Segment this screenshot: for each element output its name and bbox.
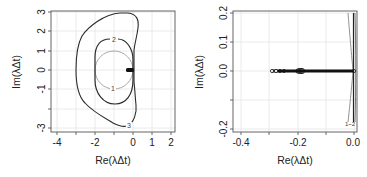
contour-3-edge (355, 13, 356, 122)
left-x-tick-label: 2 (168, 137, 174, 148)
right-y-tick-label: 0.1 (218, 35, 229, 49)
contour-1-label: 1 (111, 85, 115, 92)
left-x-tick-label: 0 (130, 137, 136, 148)
left-x-tick-label: -2 (91, 137, 100, 148)
right-y-tick-label: -0.2 (218, 120, 229, 138)
right-y-tick-label: 0.2 (218, 6, 229, 20)
right-y-tick-label: 0.0 (218, 64, 229, 78)
left-y-tick-label: 3 (36, 9, 47, 15)
left-grid (51, 11, 175, 131)
left-x-tick-label: 1 (149, 137, 155, 148)
left-x-axis-label: Re(λΔt) (95, 154, 131, 166)
right-contour-label: 1~2 (345, 121, 356, 127)
left-y-tick-label: 1 (36, 48, 47, 54)
contour-1-edge (348, 13, 353, 122)
contour-3-label: 3 (127, 122, 131, 129)
right-x-tick-label: -0.4 (232, 137, 250, 148)
left-x-tick-label: -4 (53, 137, 62, 148)
right-x-axis-label: Re(λΔt) (277, 154, 313, 166)
right-x-tick-label: 0.0 (346, 137, 360, 148)
right-y-axis-label: Im(λΔt) (193, 55, 205, 89)
left-y-tick-label: -3 (36, 123, 47, 132)
left-eigenvalue-points (126, 68, 134, 72)
eigenvalue-point (270, 69, 273, 72)
right-panel: 1~2 -0.4 -0.2 0.0 0.2 0.1 0 (193, 6, 360, 166)
contour-2-label: 2 (112, 36, 116, 43)
left-y-axis-label: Im(λΔt) (10, 55, 22, 89)
right-x-tick-label: -0.2 (289, 137, 307, 148)
left-plot-box (51, 11, 175, 132)
left-y-tick-label: 0 (36, 67, 47, 73)
left-y-tick-label: -1 (36, 84, 47, 93)
figure: 1 2 3 -4 -2 (0, 0, 367, 177)
left-y-tick-label: 2 (36, 28, 47, 34)
left-panel: 1 2 3 -4 -2 (10, 9, 175, 166)
eigenvalue-point (274, 69, 277, 72)
